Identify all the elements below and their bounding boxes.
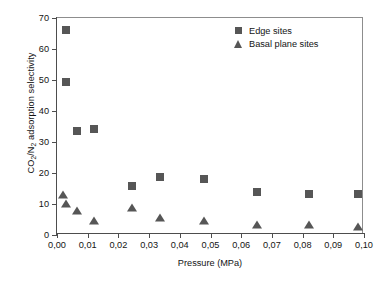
data-point-edge-sites-5 <box>156 173 164 181</box>
x-tick-0,00 <box>57 233 58 238</box>
x-tick-0,02 <box>118 233 119 238</box>
legend-label-basal-plane-sites: Basal plane sites <box>249 39 318 49</box>
y-tick-60 <box>52 49 57 50</box>
square-marker-icon <box>232 27 244 34</box>
data-point-edge-sites-8 <box>305 190 313 198</box>
x-tick-0,01 <box>88 233 89 238</box>
y-axis-title-n: /N <box>26 146 36 155</box>
legend-item-edge-sites: Edge sites <box>232 24 318 37</box>
x-tick-label-0,02: 0,02 <box>109 240 127 250</box>
data-point-edge-sites-4 <box>128 182 136 190</box>
y-tick-20 <box>52 173 57 174</box>
data-point-edge-sites-6 <box>200 175 208 183</box>
x-tick-label-0,09: 0,09 <box>324 240 342 250</box>
data-point-basal-plane-sites-6 <box>199 217 209 225</box>
data-point-basal-plane-sites-5 <box>155 214 165 222</box>
data-point-basal-plane-sites-4 <box>127 204 137 212</box>
y-tick-label-10: 10 <box>39 199 49 209</box>
data-point-edge-sites-2 <box>73 127 81 135</box>
y-tick-label-70: 70 <box>39 13 49 23</box>
y-tick-label-60: 60 <box>39 44 49 54</box>
y-tick-40 <box>52 111 57 112</box>
x-tick-label-0,04: 0,04 <box>171 240 189 250</box>
y-axis-title-co: CO <box>26 160 36 174</box>
data-point-edge-sites-0 <box>62 26 70 34</box>
y-axis-title-rest: adsorption selectivity <box>26 52 36 142</box>
y-tick-label-0: 0 <box>44 230 49 240</box>
x-tick-label-0,03: 0,03 <box>140 240 158 250</box>
x-tick-0,09 <box>333 233 334 238</box>
y-tick-label-20: 20 <box>39 168 49 178</box>
data-point-basal-plane-sites-8 <box>304 221 314 229</box>
chart-figure: CO2/N2 adsorption selectivity Pressure (… <box>0 0 388 281</box>
x-tick-0,07 <box>272 233 273 238</box>
data-point-edge-sites-1 <box>62 78 70 86</box>
x-tick-0,03 <box>149 233 150 238</box>
y-tick-50 <box>52 80 57 81</box>
data-point-edge-sites-9 <box>354 190 362 198</box>
legend: Edge sites Basal plane sites <box>232 24 318 50</box>
data-point-edge-sites-3 <box>90 125 98 133</box>
data-point-basal-plane-sites-9 <box>353 223 363 231</box>
x-tick-0,04 <box>180 233 181 238</box>
x-tick-label-0,10: 0,10 <box>355 240 373 250</box>
y-tick-30 <box>52 142 57 143</box>
x-tick-0,06 <box>241 233 242 238</box>
x-tick-label-0,06: 0,06 <box>232 240 250 250</box>
triangle-marker-icon <box>232 40 244 48</box>
data-point-basal-plane-sites-7 <box>252 220 262 228</box>
legend-item-basal-plane-sites: Basal plane sites <box>232 37 318 50</box>
x-tick-0,05 <box>211 233 212 238</box>
y-axis-title-sub-1: 2 <box>30 156 37 160</box>
data-point-basal-plane-sites-2 <box>72 207 82 215</box>
data-point-edge-sites-7 <box>253 188 261 196</box>
y-axis-title-sub-2: 2 <box>30 143 37 147</box>
data-point-basal-plane-sites-3 <box>89 216 99 224</box>
data-point-basal-plane-sites-0 <box>58 191 68 199</box>
y-tick-label-40: 40 <box>39 106 49 116</box>
y-tick-label-30: 30 <box>39 137 49 147</box>
legend-label-edge-sites: Edge sites <box>249 26 292 36</box>
y-axis-title: CO2/N2 adsorption selectivity <box>26 8 36 218</box>
y-tick-10 <box>52 204 57 205</box>
x-tick-label-0,08: 0,08 <box>294 240 312 250</box>
x-tick-label-0,07: 0,07 <box>263 240 281 250</box>
x-tick-label-0,00: 0,00 <box>48 240 66 250</box>
x-tick-label-0,05: 0,05 <box>202 240 220 250</box>
x-tick-0,08 <box>303 233 304 238</box>
y-tick-label-50: 50 <box>39 75 49 85</box>
y-tick-70 <box>52 18 57 19</box>
x-tick-0,10 <box>364 233 365 238</box>
data-point-basal-plane-sites-1 <box>61 200 71 208</box>
x-tick-label-0,01: 0,01 <box>79 240 97 250</box>
x-axis-title: Pressure (MPa) <box>56 258 364 268</box>
